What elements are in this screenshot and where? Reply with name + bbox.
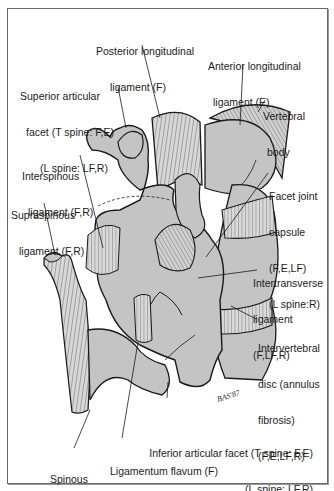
facet-capsule-shape xyxy=(155,224,195,271)
label-spinous-process: Spinous process (E) xyxy=(50,449,104,491)
label-line: Intervertebral xyxy=(258,342,320,354)
label-line: Anterior longitudinal xyxy=(208,60,301,72)
label-vertebral-body: Vertebral body xyxy=(263,86,305,170)
label-line: disc (annulus xyxy=(258,378,320,390)
artist-signature: BAS'87 xyxy=(216,388,242,404)
label-line: Facet joint xyxy=(269,190,320,202)
label-line: Interspinous xyxy=(22,170,93,182)
label-line: body xyxy=(263,146,305,158)
label-line: Posterior longitudinal xyxy=(96,45,194,57)
label-line: Superior articular xyxy=(20,90,114,102)
label-line: Ligamentum flavum (F) xyxy=(110,465,218,477)
ligamentum-flavum-shape xyxy=(134,294,152,342)
label-ligamentum-flavum: Ligamentum flavum (F) xyxy=(110,441,218,489)
label-supraspinous-ligament: Supraspinous ligament (F,R) xyxy=(11,185,84,269)
label-line: Spinous xyxy=(50,473,104,485)
label-line: ligament (F,R) xyxy=(11,245,84,257)
label-line: Supraspinous xyxy=(11,209,84,221)
label-line: facet (T spine: F,E) xyxy=(20,126,114,138)
label-line: Vertebral xyxy=(263,110,305,122)
label-line: Intertransverse xyxy=(253,277,323,289)
label-line: capsule xyxy=(269,226,320,238)
interspinous-ligament-shape xyxy=(86,225,120,274)
supraspinous-ligament-shape xyxy=(44,252,90,413)
